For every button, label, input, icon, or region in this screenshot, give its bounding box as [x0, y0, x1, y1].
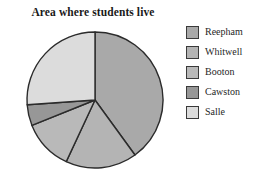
legend-item-salle[interactable]: Salle [186, 102, 264, 122]
legend-swatch-booton [186, 66, 199, 79]
legend-label: Whitwell [205, 47, 242, 57]
legend-item-cawston[interactable]: Cawston [186, 82, 264, 102]
pie-slice-group [27, 32, 163, 168]
legend-label: Salle [205, 107, 225, 117]
legend-label: Cawston [205, 87, 240, 97]
legend-swatch-whitwell [186, 46, 199, 59]
legend-item-whitwell[interactable]: Whitwell [186, 42, 264, 62]
legend-swatch-salle [186, 106, 199, 119]
legend-item-booton[interactable]: Booton [186, 62, 264, 82]
chart-legend: ReephamWhitwellBootonCawstonSalle [186, 22, 264, 122]
pie-slice-salle[interactable] [27, 32, 95, 105]
legend-label: Reepham [205, 27, 243, 37]
legend-swatch-reepham [186, 26, 199, 39]
pie-svg [0, 18, 186, 185]
legend-swatch-cawston [186, 86, 199, 99]
legend-item-reepham[interactable]: Reepham [186, 22, 264, 42]
legend-label: Booton [205, 67, 234, 77]
chart-title: Area where students live [0, 6, 186, 18]
pie-chart-figure: Area where students live ReephamWhitwell… [0, 0, 264, 185]
pie-plot-area [0, 18, 186, 185]
